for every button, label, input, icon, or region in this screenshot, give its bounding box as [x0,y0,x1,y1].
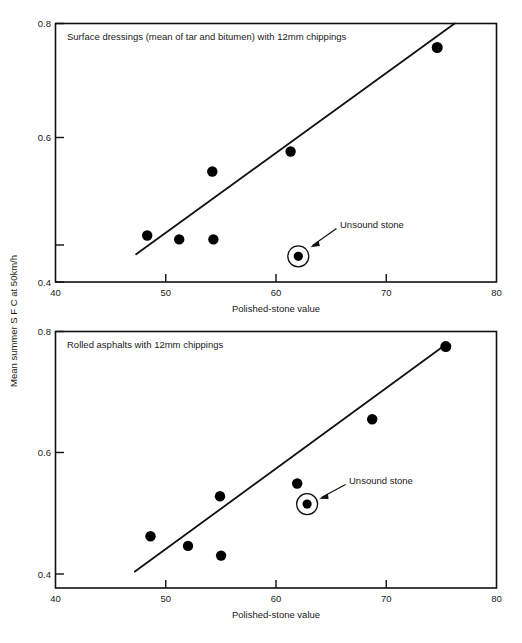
chart-canvas: Mean summer S F C at 50km/h Surface dres… [0,0,522,643]
y-axis-label: Mean summer S F C at 50km/h [8,255,19,387]
data-point [216,550,226,560]
x-ticklabel-bottom-70: 70 [381,593,392,604]
data-point [292,478,302,488]
y-ticklabel-top-0: 0.8 [38,18,51,29]
fit-line-bottom [135,345,446,572]
data-point [145,531,155,541]
annotation-arrowhead-bottom [319,494,328,499]
data-point-outlier [303,500,312,509]
x-ticklabel-top-50: 50 [160,287,171,298]
x-ticklabel-bottom-60: 60 [271,593,282,604]
x-ticklabel-top-40: 40 [50,287,61,298]
panel-bottom: Rolled asphalts with 12mm chippings 0.8 … [38,326,502,620]
annotation-arrowhead-top [310,241,320,247]
figure-scatter-panels: Mean summer S F C at 50km/h Surface dres… [0,0,522,643]
data-point [142,230,152,240]
annotation-label-bottom: Unsound stone [349,475,413,486]
x-ticklabel-top-60: 60 [271,287,282,298]
data-point [367,414,377,424]
x-ticklabel-top-80: 80 [491,287,502,298]
data-point [285,146,295,156]
data-point [432,42,443,53]
x-ticklabel-bottom-40: 40 [50,593,61,604]
y-ticklabel-bottom-2: 0.4 [38,569,51,580]
data-point [208,234,218,244]
data-point [174,234,184,244]
x-ticklabel-bottom-50: 50 [160,593,171,604]
y-ticklabel-top-2: 0.4 [38,277,51,288]
plot-frame-bottom [56,332,497,589]
y-ticklabel-bottom-1: 0.6 [38,447,51,458]
panel-title-bottom: Rolled asphalts with 12mm chippings [67,339,224,350]
y-ticklabel-bottom-0: 0.8 [38,326,51,337]
x-ticklabel-top-70: 70 [381,287,392,298]
x-ticklabel-bottom-80: 80 [491,593,502,604]
data-point [215,491,225,501]
data-point [183,541,193,551]
x-axis-title-bottom: Polished-stone value [232,609,320,620]
y-ticklabel-top-1: 0.6 [38,132,51,143]
annotation-label-top: Unsound stone [340,219,404,230]
panel-title-top: Surface dressings (mean of tar and bitum… [67,31,347,42]
data-point-outlier [294,252,303,261]
x-axis-title-top: Polished-stone value [232,303,320,314]
panel-top: Surface dressings (mean of tar and bitum… [38,18,502,314]
data-point [207,166,217,176]
data-point [440,341,451,352]
fit-line-top [136,24,455,255]
